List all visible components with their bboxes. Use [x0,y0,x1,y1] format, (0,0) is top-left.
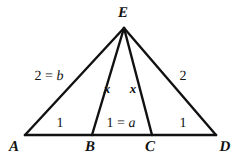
equals-sign: = [117,116,125,131]
segment-label-cevian-EB: x [104,82,111,95]
equals-sign: = [45,69,53,84]
segment-label-side-ED: 2 [180,70,187,84]
vertex-label-A: A [9,140,19,155]
segment-label-CD: 1 [180,117,187,131]
vertex-label-C: C [145,140,155,155]
geometry-figure: A B C D E 2 = b 2 1 1 = a 1 x x [0,0,240,162]
segment-length-value: 1 [107,116,114,131]
segment-label-side-AE: 2 = b [35,70,64,84]
segment-variable-a: a [128,116,135,131]
segment-length-value: 2 [35,69,42,84]
segment-variable-b: b [56,69,63,84]
vertex-label-D: D [220,140,231,155]
vertex-label-E: E [118,6,128,21]
segment-label-cevian-EC: x [130,82,137,95]
segment-label-BC: 1 = a [107,117,136,131]
segment-label-AB: 1 [57,117,64,131]
vertex-label-B: B [85,140,95,155]
